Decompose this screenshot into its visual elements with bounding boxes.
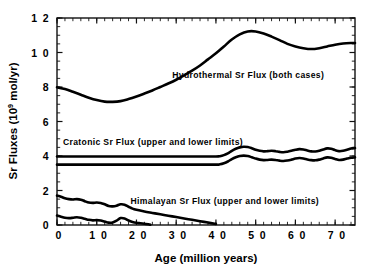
y-tick-label: 6 [43,116,50,128]
series-annotations: Hydrothermal Sr Flux (both cases)Cratoni… [63,70,324,206]
x-tick-label: 5 0 [248,229,267,241]
himalayan-label: Himalayan Sr Flux (upper and lower limit… [131,196,320,206]
x-tick-label: 6 0 [288,229,307,241]
series-line: Cratonic Sr Flux (upper limit) [57,147,355,157]
x-axis-major-ticks [57,18,335,225]
x-axis-title: Age (million years) [155,252,258,264]
x-tick-label: 4 0 [209,229,228,241]
sr-flux-line-chart: 01 02 03 04 05 06 07 0 024681 01 2 Hydro… [0,0,367,271]
y-axis-tick-labels: 024681 01 2 [31,12,50,231]
x-tick-label: 7 0 [328,229,347,241]
y-tick-label: 4 [43,150,50,162]
x-tick-label: 1 0 [89,229,108,241]
x-tick-label: 3 0 [169,229,188,241]
hydrothermal-label: Hydrothermal Sr Flux (both cases) [172,70,324,80]
x-tick-label: 0 [55,229,62,241]
y-tick-label: 0 [43,219,50,231]
y-tick-label: 2 [43,185,50,197]
cratonic-label: Cratonic Sr Flux (upper and lower limits… [63,137,243,147]
x-axis-tick-labels: 01 02 03 04 05 06 07 0 [55,229,346,241]
y-axis-title: Sr Fluxes (109 mol/yr) [7,62,19,179]
x-tick-label: 2 0 [129,229,148,241]
series-line: Hydrothermal Sr Flux (both cases) [57,31,355,102]
y-tick-label: 8 [43,81,50,93]
y-tick-label: 1 0 [31,47,50,59]
chart-figure: 01 02 03 04 05 06 07 0 024681 01 2 Hydro… [0,0,367,271]
y-tick-label: 1 2 [31,12,50,24]
